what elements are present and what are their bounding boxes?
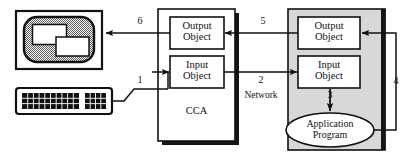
cca-output-line2: Object [183,31,211,42]
cca-input-line1: Input [186,59,208,70]
server-output-object-label: Output Object [298,20,360,43]
cca-output-object-label: Output Object [170,20,224,43]
cca-output-line1: Output [182,20,211,31]
flow-1-label: 1 [132,75,148,86]
flow-5-label: 5 [255,16,271,27]
monitor-icon [16,11,102,69]
app-line2: Program [313,129,347,140]
network-label: Network [238,90,284,100]
flow-3-label: 3 [322,90,338,101]
server-output-line1: Output [314,20,343,31]
flow-6-label: 6 [132,16,148,27]
server-output-line2: Object [315,31,343,42]
server-input-line1: Input [318,59,340,70]
keyboard-icon [16,88,112,114]
cca-input-object-label: Input Object [170,59,224,82]
flow-2-label: 2 [253,75,269,86]
server-input-object-label: Input Object [298,59,360,82]
flow-4-label: 4 [388,76,404,87]
cca-input-line2: Object [183,70,211,81]
server-input-line2: Object [315,70,343,81]
app-line1: Application [306,118,353,129]
diagram-canvas: Output Object Input Object CCA Output Ob… [0,0,410,158]
cca-panel-title: CCA [158,105,235,116]
application-program-label: Application Program [286,119,374,141]
